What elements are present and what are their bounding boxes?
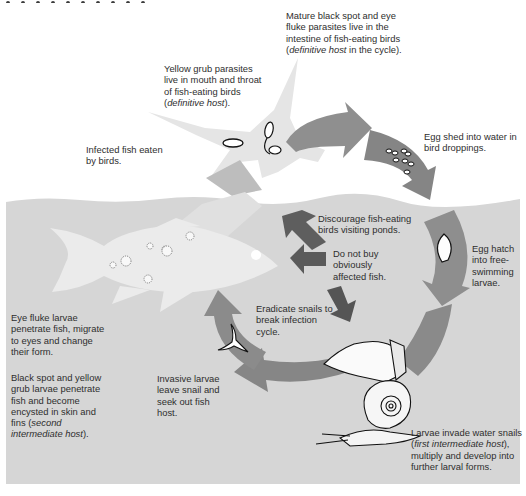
label-eye-fluke: Eye fluke larvae penetrate fish, migrate… xyxy=(11,312,111,357)
bird-wing-shadow xyxy=(206,160,262,196)
arrow-bird-to-water xyxy=(286,102,372,158)
label-do-not-buy: Do not buy obviously affected fish. xyxy=(333,248,393,282)
label-yellow-grub: Yellow grub parasites live in mouth and … xyxy=(164,63,264,108)
label-egg-shed: Egg shed into water in bird droppings. xyxy=(424,131,524,154)
label-discourage-birds: Discourage fish-eating birds visiting po… xyxy=(318,213,428,236)
yellow-grub-parasite-icon xyxy=(223,139,243,147)
label-larvae-invade: Larvae invade water snails (first interm… xyxy=(411,427,523,472)
label-eradicate-snails: Eradicate snails to break infection cycl… xyxy=(256,303,336,337)
label-invasive-larvae: Invasive larvae leave snail and seek out… xyxy=(157,373,223,418)
label-infected-fish: Infected fish eaten by birds. xyxy=(86,144,166,167)
label-mature-parasites: Mature black spot and eye fluke parasite… xyxy=(286,10,406,55)
fish-eye xyxy=(251,250,261,260)
label-egg-hatch: Egg hatch into free-swimming larvae. xyxy=(472,243,524,288)
label-black-spot: Black spot and yellow grub larvae penetr… xyxy=(11,372,107,440)
